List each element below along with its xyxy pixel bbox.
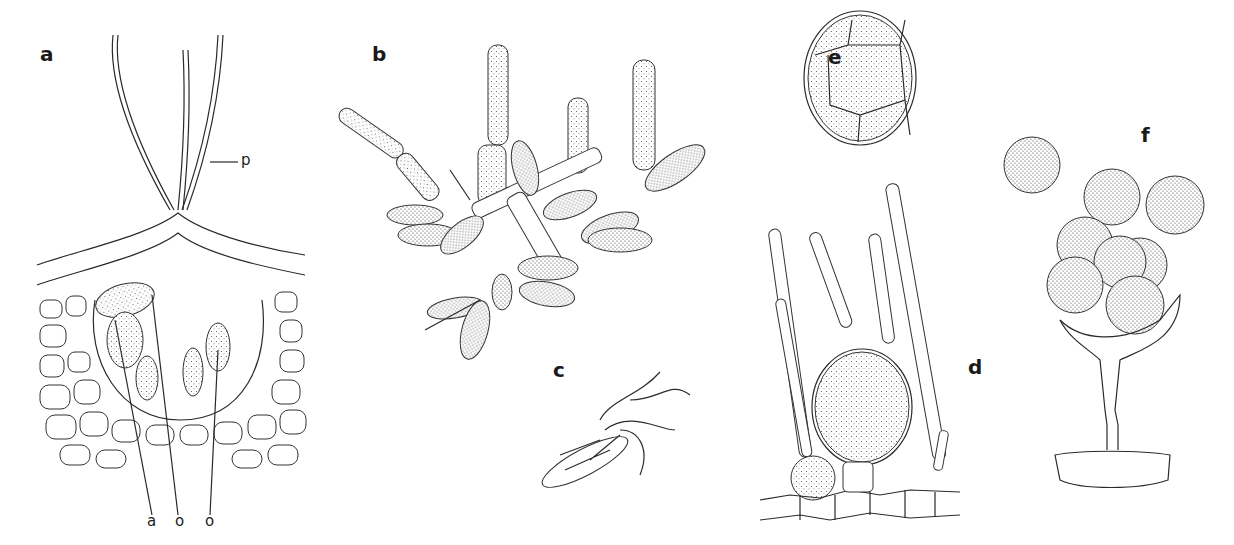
panel-label-e: e <box>828 45 842 69</box>
panel-label-a: a <box>40 42 54 66</box>
panel-d-drawing <box>760 183 960 520</box>
figure-drawing <box>0 0 1234 545</box>
panel-a-drawing <box>37 35 306 515</box>
panel-label-b: b <box>372 42 386 66</box>
annotation-o-2: o <box>205 512 214 530</box>
panel-c-drawing <box>537 372 690 496</box>
panel-label-c: c <box>553 358 565 382</box>
panel-b-drawing <box>336 45 712 362</box>
panel-label-d: d <box>968 355 982 379</box>
panel-label-f: f <box>1141 123 1150 147</box>
panel-f-drawing <box>1004 137 1204 488</box>
annotation-o-1: o <box>175 512 184 530</box>
annotation-a: a <box>147 512 156 530</box>
annotation-p: p <box>241 151 251 169</box>
panel-e-drawing <box>804 11 916 145</box>
